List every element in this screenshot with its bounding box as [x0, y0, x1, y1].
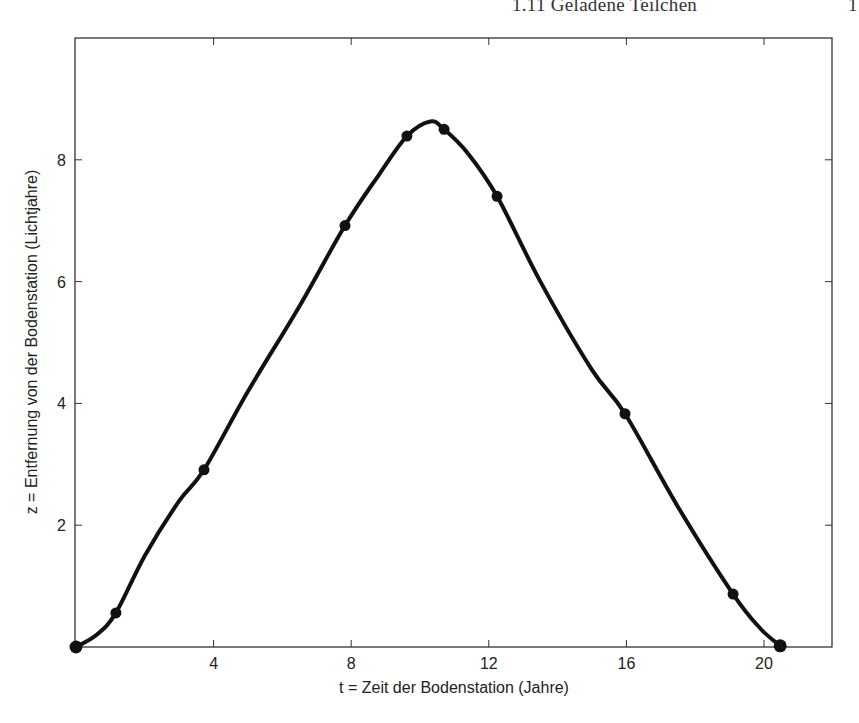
data-point-marker: [774, 639, 787, 652]
y-tick-label: 8: [57, 152, 66, 169]
x-axis-ticks: 48121620: [209, 38, 773, 672]
x-tick-label: 16: [618, 655, 636, 672]
y-tick-label: 6: [57, 274, 66, 291]
data-point-marker: [70, 641, 83, 654]
y-tick-label: 2: [57, 517, 66, 534]
x-tick-label: 12: [480, 655, 498, 672]
x-axis-label: t = Zeit der Bodenstation (Jahre): [339, 679, 569, 696]
x-tick-label: 20: [755, 655, 773, 672]
data-markers: [70, 124, 787, 654]
data-point-marker: [492, 191, 503, 202]
chart: 48121620 2468 t = Zeit der Bodenstation …: [0, 0, 859, 723]
plot-frame: [75, 38, 832, 647]
y-tick-label: 4: [57, 395, 66, 412]
trajectory-curve: [76, 121, 780, 647]
data-point-marker: [620, 408, 631, 419]
data-point-marker: [401, 131, 412, 142]
y-axis-ticks: 2468: [57, 152, 832, 534]
data-point-marker: [340, 220, 351, 231]
data-point-marker: [110, 607, 121, 618]
x-tick-label: 4: [209, 655, 218, 672]
data-point-marker: [198, 464, 209, 475]
y-axis-label: z = Entfernung von der Bodenstation (Lic…: [23, 170, 40, 515]
data-point-marker: [439, 124, 450, 135]
data-point-marker: [728, 589, 739, 600]
x-tick-label: 8: [347, 655, 356, 672]
